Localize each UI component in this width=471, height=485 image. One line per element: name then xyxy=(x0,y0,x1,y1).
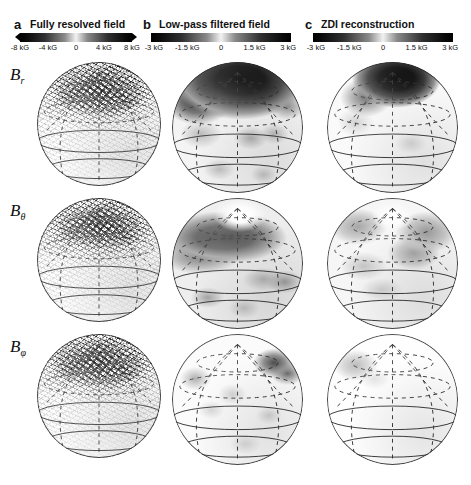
colorbar-b: -3 kG -1.5 kG 0 1.5 kG 3 kG xyxy=(151,33,291,55)
sphere-b-btheta xyxy=(172,198,303,329)
colorbar-ticks-a: -8 kG -4 kG 0 4 kG 8 kG xyxy=(20,43,132,55)
coordinate-grid xyxy=(327,62,458,193)
colorbar-gradient-b xyxy=(151,33,291,42)
row-label-base: B xyxy=(10,337,20,356)
column-title-a: Fully resolved field xyxy=(30,18,125,30)
panel-letter-b: b xyxy=(143,18,151,31)
colorbar-tick: -3 kG xyxy=(145,43,163,52)
coordinate-grid xyxy=(37,198,161,322)
coordinate-grid xyxy=(172,62,303,193)
row-label-base: B xyxy=(10,65,20,84)
coordinate-grid xyxy=(327,334,458,465)
row-label-sub: θ xyxy=(20,211,25,222)
colorbar-tick: 0 xyxy=(381,43,385,52)
row-label-btheta: Bθ xyxy=(10,202,25,225)
colorbar-tick: 1.5 kG xyxy=(244,43,266,52)
row-label-bphi: Bφ xyxy=(10,338,26,361)
sphere-b-br xyxy=(172,62,303,193)
colorbar-tick: 0 xyxy=(219,43,223,52)
row-label-sub: r xyxy=(20,75,24,86)
colorbar-ticks-b: -3 kG -1.5 kG 0 1.5 kG 3 kG xyxy=(151,43,291,55)
coordinate-grid xyxy=(172,198,303,329)
sphere-c-br xyxy=(327,62,458,193)
colorbar-tick: 1.5 kG xyxy=(406,43,428,52)
colorbar-tick: -1.5 kG xyxy=(337,43,362,52)
colorbar-tick: -8 kG xyxy=(11,43,29,52)
column-header-b: b Low-pass filtered field -3 kG -1.5 kG … xyxy=(143,18,293,58)
colorbar-tick: -3 kG xyxy=(307,43,325,52)
sphere-a-bphi xyxy=(37,334,161,458)
sphere-a-br xyxy=(37,62,161,186)
row-label-base: B xyxy=(10,201,20,220)
colorbar-tick: 8 kG xyxy=(124,43,140,52)
row-label-sub: φ xyxy=(20,347,26,358)
colorbar-tick: 0 xyxy=(74,43,78,52)
colorbar-tick: 4 kG xyxy=(96,43,112,52)
colorbar-gradient-c xyxy=(313,33,453,42)
column-header-c: c ZDI reconstruction -3 kG -1.5 kG 0 1.5… xyxy=(305,18,457,58)
coordinate-grid xyxy=(172,334,303,465)
colorbar-tick: -1.5 kG xyxy=(175,43,200,52)
colorbar-tick: 3 kG xyxy=(442,43,458,52)
panel-letter-a: a xyxy=(14,18,21,31)
colorbar-a: -8 kG -4 kG 0 4 kG 8 kG xyxy=(20,33,132,55)
coordinate-grid xyxy=(37,334,161,458)
coordinate-grid xyxy=(37,62,161,186)
colorbar-gradient-a xyxy=(20,33,132,42)
row-label-br: Br xyxy=(10,66,24,89)
sphere-c-bphi xyxy=(327,334,458,465)
sphere-a-btheta xyxy=(37,198,161,322)
column-title-c: ZDI reconstruction xyxy=(321,18,414,30)
colorbar-tick: -4 kG xyxy=(39,43,57,52)
column-title-b: Low-pass filtered field xyxy=(159,18,270,30)
column-header-a: a Fully resolved field -8 kG -4 kG 0 4 k… xyxy=(14,18,136,58)
colorbar-tick: 3 kG xyxy=(280,43,296,52)
sphere-b-bphi xyxy=(172,334,303,465)
sphere-c-btheta xyxy=(327,198,458,329)
panel-letter-c: c xyxy=(305,18,312,31)
colorbar-c: -3 kG -1.5 kG 0 1.5 kG 3 kG xyxy=(313,33,453,55)
figure-canvas: a Fully resolved field -8 kG -4 kG 0 4 k… xyxy=(0,0,471,485)
colorbar-ticks-c: -3 kG -1.5 kG 0 1.5 kG 3 kG xyxy=(313,43,453,55)
coordinate-grid xyxy=(327,198,458,329)
